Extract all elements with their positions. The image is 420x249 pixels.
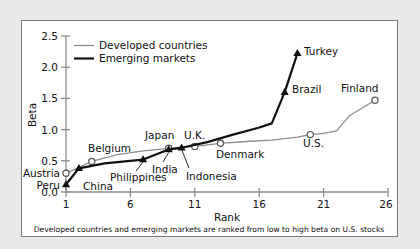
y-axis-title: Beta <box>26 103 38 127</box>
figure-page: 0.0 0.5 1.0 1.5 2.0 2.5 Beta 1 6 11 16 2… <box>0 0 420 249</box>
point-label-denmark: Denmark <box>216 148 265 160</box>
y-tick-label-3: 1.5 <box>41 92 58 104</box>
y-tick-label-2: 1.0 <box>41 124 58 136</box>
chart-legend: Developed countries Emerging markets <box>74 39 207 64</box>
beta-rank-line-chart: 0.0 0.5 1.0 1.5 2.0 2.5 Beta 1 6 11 16 2… <box>0 0 420 249</box>
point-label-turkey: Turkey <box>303 45 338 57</box>
series-emerging-markets <box>62 49 302 187</box>
point-label-indonesia: Indonesia <box>186 170 237 182</box>
indonesia-leader-line <box>182 150 189 169</box>
point-label-china: China <box>83 180 113 192</box>
x-tick-label-1: 1 <box>63 198 70 210</box>
point-label-japan: Japan <box>144 129 174 141</box>
point-label-belgium: Belgium <box>88 142 131 154</box>
point-label-india: India <box>152 163 178 175</box>
x-axis-title: Rank <box>214 211 241 223</box>
y-tick-label-5: 2.5 <box>41 30 58 42</box>
x-tick-label-26: 26 <box>379 198 393 210</box>
legend-label-developed-countries: Developed countries <box>99 39 207 51</box>
point-label-peru: Peru <box>37 179 60 191</box>
emerging-markets-line <box>66 53 297 184</box>
point-label-us: U.S. <box>303 137 324 149</box>
x-tick-label-21: 21 <box>317 198 330 210</box>
legend-label-emerging-markets: Emerging markets <box>99 52 195 64</box>
point-label-uk: U.K. <box>184 129 205 141</box>
developed-countries-markers <box>63 97 378 176</box>
series-developed-countries <box>63 97 378 176</box>
y-tick-label-1: 0.5 <box>41 155 58 167</box>
point-label-brazil: Brazil <box>292 83 321 95</box>
philippines-leader-line <box>136 162 143 171</box>
y-tick-label-4: 2.0 <box>41 61 58 73</box>
point-label-austria: Austria <box>23 167 60 179</box>
x-tick-label-16: 16 <box>253 198 267 210</box>
figure-caption: Developed countries and emerging markets… <box>34 225 385 234</box>
point-label-finland: Finland <box>341 82 379 94</box>
emerging-markets-markers <box>62 49 302 187</box>
x-tick-label-6: 6 <box>127 198 134 210</box>
india-leader-line <box>163 153 169 163</box>
x-tick-label-11: 11 <box>188 198 201 210</box>
